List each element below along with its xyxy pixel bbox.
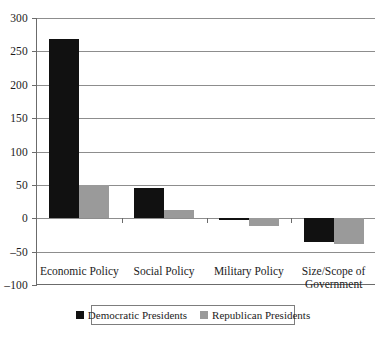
bar-democratic [304, 218, 334, 242]
y-tick [32, 118, 37, 119]
y-tick [32, 152, 37, 153]
y-tick-label: 50 [16, 179, 28, 191]
bar-chart: 300250200150100500–50–100 Economic Polic… [0, 0, 385, 338]
legend-label-democratic: Democratic Presidents [88, 309, 187, 321]
y-tick-label: –50 [10, 246, 28, 258]
gridline [37, 18, 375, 19]
gridline [37, 118, 375, 119]
legend-swatch-democratic [76, 311, 84, 319]
y-tick [32, 285, 37, 286]
bar-democratic [219, 218, 249, 220]
y-tick-label: 0 [22, 212, 28, 224]
y-tick-label: 300 [10, 12, 28, 24]
bar-republican [249, 218, 279, 226]
legend-swatch-republican [200, 311, 208, 319]
y-tick-label: 200 [10, 79, 28, 91]
x-tick [122, 218, 123, 223]
y-tick-label: 150 [10, 112, 28, 124]
x-tick [291, 218, 292, 223]
bar-democratic [134, 188, 164, 218]
category-label: Military Policy [207, 265, 292, 278]
category-label: Social Policy [122, 265, 207, 278]
category-label: Size/Scope of Government [291, 265, 376, 291]
gridline [37, 85, 375, 86]
x-tick [207, 218, 208, 223]
bar-republican [164, 210, 194, 219]
y-tick [32, 185, 37, 186]
bar-democratic [49, 39, 79, 218]
gridline [37, 51, 375, 52]
y-tick-label: –100 [4, 279, 28, 291]
gridline [37, 152, 375, 153]
y-tick [32, 51, 37, 52]
legend-item-republican: Republican Presidents [200, 309, 310, 321]
y-tick [32, 252, 37, 253]
legend-item-democratic: Democratic Presidents [76, 309, 187, 321]
bar-republican [79, 185, 109, 218]
chart-legend: Democratic Presidents Republican Preside… [91, 305, 295, 325]
gridline [37, 252, 375, 253]
y-tick [32, 85, 37, 86]
y-tick-label: 250 [10, 45, 28, 57]
plot-area: 300250200150100500–50–100 Economic Polic… [36, 18, 375, 285]
bar-republican [334, 218, 364, 243]
y-tick [32, 18, 37, 19]
y-tick-label: 100 [10, 146, 28, 158]
category-label: Economic Policy [37, 265, 122, 278]
legend-label-republican: Republican Presidents [212, 309, 310, 321]
